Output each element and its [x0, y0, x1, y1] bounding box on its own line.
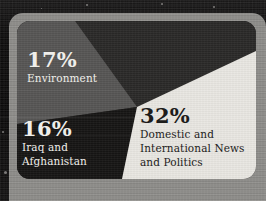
- slice-caption-iraq-afghanistan-line1: Iraq and: [22, 142, 87, 153]
- slice-percent-domestic-news: 32%: [140, 105, 245, 126]
- noise-speck: [86, 4, 88, 6]
- slice-label-environment: 17% Environment: [27, 49, 97, 84]
- slice-caption-environment: Environment: [27, 73, 97, 84]
- noise-speck: [4, 171, 7, 174]
- slice-label-iraq-afghanistan: 16% Iraq and Afghanistan: [22, 118, 87, 167]
- slice-caption-iraq-afghanistan-line2: Afghanistan: [22, 156, 87, 167]
- slice-caption-domestic-news-line2: International News: [140, 143, 245, 154]
- slice-percent-environment: 17%: [27, 49, 97, 70]
- slice-label-domestic-news: 32% Domestic and International News and …: [140, 105, 245, 168]
- noise-speck: [161, 3, 163, 5]
- noise-speck: [213, 6, 215, 8]
- slice-caption-domestic-news-line3: and Politics: [140, 157, 245, 168]
- slice-caption-domestic-news-line1: Domestic and: [140, 129, 245, 140]
- noise-speck: [41, 8, 42, 9]
- screenshot-root: 17% Environment 16% Iraq and Afghanistan…: [0, 0, 266, 201]
- slice-percent-iraq-afghanistan: 16%: [22, 118, 87, 139]
- noise-speck: [2, 131, 4, 133]
